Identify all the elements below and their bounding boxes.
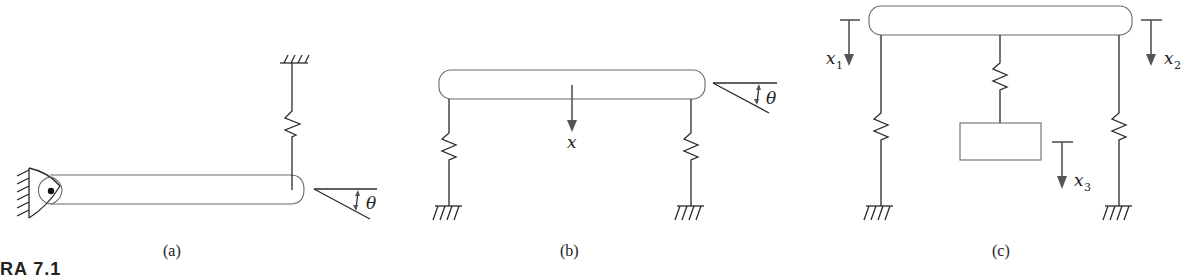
- panel-label-c: (c): [992, 242, 1010, 260]
- x-label: x: [567, 132, 577, 152]
- ground-icon: [864, 206, 893, 220]
- spring-icon: [285, 63, 300, 190]
- down-arrow-icon: [1052, 142, 1073, 189]
- mass-block: [960, 123, 1041, 160]
- theta-label: θ: [766, 88, 776, 108]
- panel-label-a: (a): [163, 242, 181, 260]
- ground-icon: [675, 206, 704, 220]
- panel-b: x θ (b): [433, 70, 777, 260]
- panel-label-b: (b): [560, 242, 579, 260]
- rigid-bar: [869, 6, 1132, 35]
- panel-a: θ (a): [17, 55, 377, 260]
- x2-label: x2: [1164, 48, 1181, 72]
- figure-caption: URA 7.1: [0, 259, 61, 278]
- spring-icon: [684, 99, 698, 206]
- spring-icon: [993, 35, 1007, 123]
- figure-canvas: θ (a) x: [0, 0, 1191, 278]
- down-arrow-icon: [567, 85, 577, 132]
- ground-icon: [1103, 206, 1132, 220]
- down-arrow-icon: [840, 20, 860, 66]
- rigid-bar: [50, 175, 304, 204]
- x3-label: x3: [1074, 170, 1091, 194]
- panel-c: x1 x2 x3 (c): [826, 6, 1181, 260]
- theta-label: θ: [366, 193, 376, 213]
- ground-icon: [433, 206, 462, 220]
- spring-icon: [874, 35, 888, 206]
- down-arrow-icon: [1141, 20, 1162, 66]
- spring-icon: [442, 99, 456, 206]
- x1-label: x1: [826, 48, 843, 72]
- spring-icon: [1112, 35, 1126, 206]
- ground-icon: [280, 55, 309, 63]
